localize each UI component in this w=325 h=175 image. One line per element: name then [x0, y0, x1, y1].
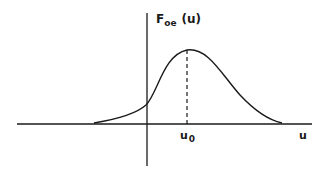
peak-label: u0	[180, 129, 195, 144]
y-axis-label: Foe(u)	[156, 12, 201, 28]
distribution-curve	[94, 50, 282, 123]
distribution-diagram: Foe(u) u0 u	[0, 0, 325, 175]
x-axis-label: u	[299, 129, 307, 142]
